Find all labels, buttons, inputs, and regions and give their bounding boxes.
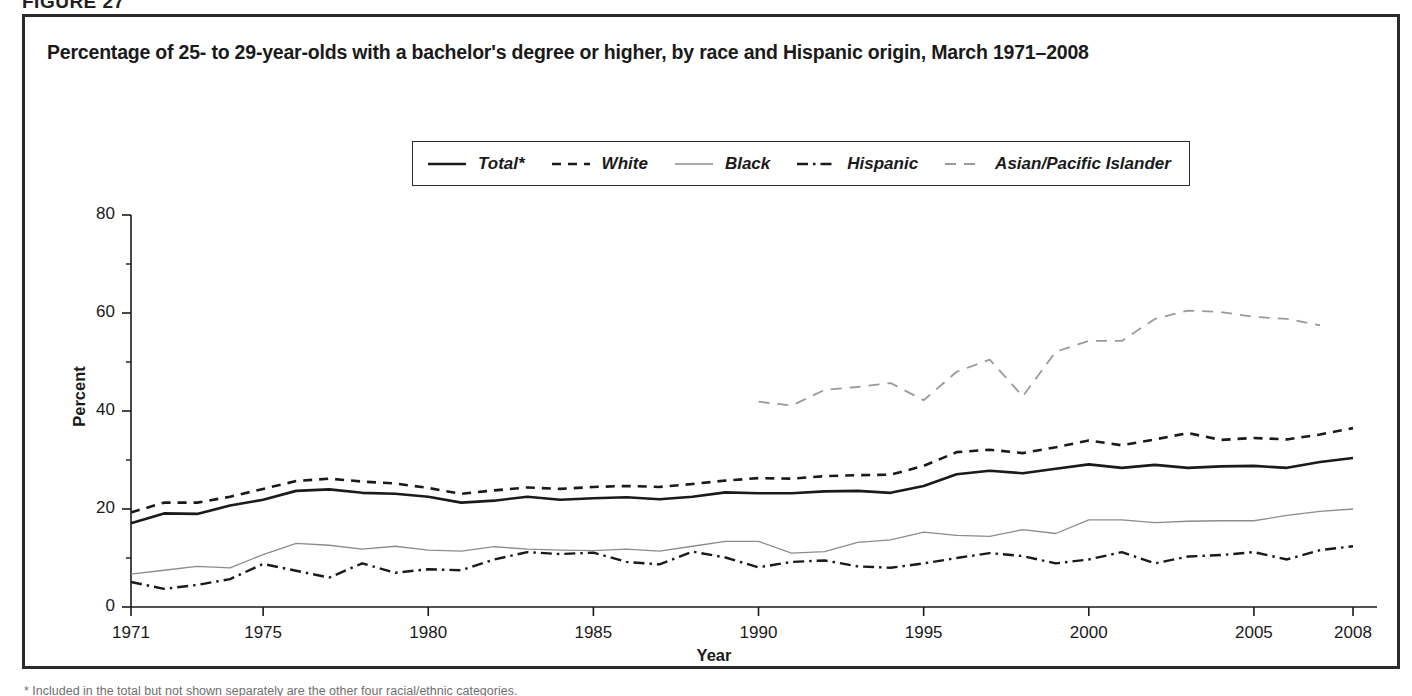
series-line-black (131, 509, 1353, 574)
series-line-total (131, 458, 1353, 523)
y-tick-label: 80 (65, 204, 115, 224)
x-tick-label: 1990 (719, 623, 799, 643)
x-tick-label: 2005 (1214, 623, 1294, 643)
x-tick-label: 1975 (223, 623, 303, 643)
y-tick-label: 0 (65, 596, 115, 616)
y-tick-label: 40 (65, 400, 115, 420)
series-line-asian-pacific-islander (759, 311, 1320, 406)
y-tick-label: 20 (65, 498, 115, 518)
y-axis-label: Percent (70, 337, 89, 457)
x-tick-label: 1985 (553, 623, 633, 643)
figure-number-label: FIGURE 27 (22, 0, 125, 13)
figure-page: FIGURE 27 Percentage of 25- to 29-year-o… (0, 0, 1412, 696)
chart-footnote: * Included in the total but not shown se… (24, 684, 1124, 696)
line-chart-svg (25, 17, 1403, 672)
series-line-hispanic (131, 546, 1353, 589)
x-tick-label: 1980 (388, 623, 468, 643)
plot-area: Percent Year 020406080197119751980198519… (25, 17, 1403, 672)
series-line-white (131, 428, 1353, 512)
x-tick-label: 2008 (1313, 623, 1393, 643)
x-tick-label: 2000 (1049, 623, 1129, 643)
x-tick-label: 1995 (884, 623, 964, 643)
x-axis-label: Year (25, 646, 1403, 665)
x-tick-label: 1971 (91, 623, 171, 643)
figure-frame: Percentage of 25- to 29-year-olds with a… (22, 14, 1400, 669)
y-tick-label: 60 (65, 302, 115, 322)
